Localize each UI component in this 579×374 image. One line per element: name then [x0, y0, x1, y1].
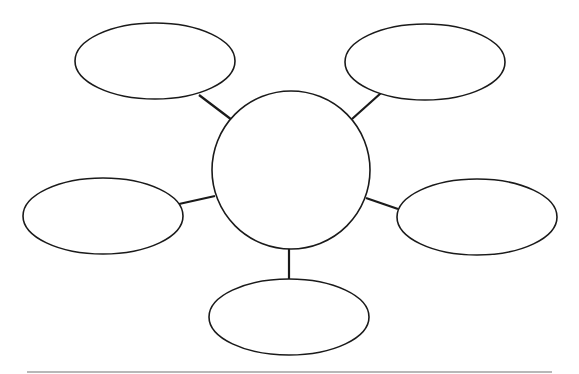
bubble-left[interactable]: [23, 178, 183, 254]
bubble-right[interactable]: [397, 179, 557, 255]
connector-right: [366, 198, 398, 209]
connector-top-left: [199, 95, 232, 120]
connector-left: [179, 196, 215, 204]
bubble-bottom[interactable]: [209, 279, 369, 355]
footer-rule: [27, 371, 552, 373]
center-bubble[interactable]: [212, 91, 370, 249]
center-bubble-group: [212, 91, 370, 249]
bubble-map-diagram: [0, 0, 579, 374]
connector-top-right: [352, 93, 381, 119]
bubble-top-left[interactable]: [75, 23, 235, 99]
bubble-top-right[interactable]: [345, 24, 505, 100]
